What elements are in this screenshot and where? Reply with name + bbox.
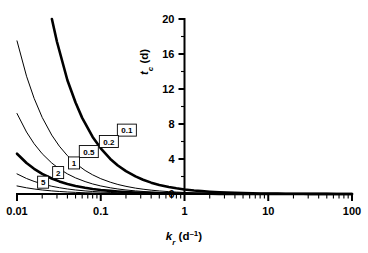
- curve-label-text: 0.1: [121, 126, 133, 135]
- curve-label-text: 5: [41, 178, 46, 187]
- x-tick-label: 0.01: [6, 205, 27, 217]
- x-title-unit-open: (d: [175, 230, 189, 242]
- chart-canvas: 0.010.1110100 048121620 0.10.20.5125 kr …: [0, 0, 368, 253]
- x-tick-label: 0.1: [93, 205, 108, 217]
- curve-label-2: 2: [53, 167, 64, 179]
- y-tick-label: 16: [162, 48, 174, 60]
- y-tick-label: 0: [168, 188, 174, 200]
- y-tick-label: 4: [168, 153, 175, 165]
- curve-label-5: 5: [38, 176, 49, 188]
- curve-label-text: 0.5: [83, 148, 95, 157]
- y-tick-label: 20: [162, 13, 174, 25]
- curve-label-0.5: 0.5: [79, 146, 98, 158]
- x-tick-label: 10: [262, 205, 274, 217]
- curve-label-0.1: 0.1: [117, 124, 136, 136]
- curve-label-text: 2: [56, 169, 61, 178]
- x-title-unit-close: ): [198, 230, 202, 242]
- y-tick-label: 12: [162, 83, 174, 95]
- x-tick-label: 100: [343, 205, 361, 217]
- x-tick-label: 1: [181, 205, 187, 217]
- y-title-unit: (d): [138, 49, 150, 67]
- curve-label-text: 1: [72, 159, 77, 168]
- curve-label-0.2: 0.2: [99, 136, 118, 148]
- y-tick-label: 8: [168, 118, 174, 130]
- curve-label-1: 1: [69, 157, 80, 169]
- curve-label-text: 0.2: [103, 138, 115, 147]
- figure-container: 0.010.1110100 048121620 0.10.20.5125 kr …: [0, 0, 368, 253]
